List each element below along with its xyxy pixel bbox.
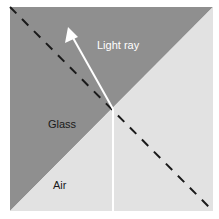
glass-label: Glass [48, 118, 77, 130]
refraction-diagram: Light ray Glass Air [0, 0, 219, 219]
light-ray-label: Light ray [97, 39, 140, 51]
air-label: Air [53, 179, 67, 191]
